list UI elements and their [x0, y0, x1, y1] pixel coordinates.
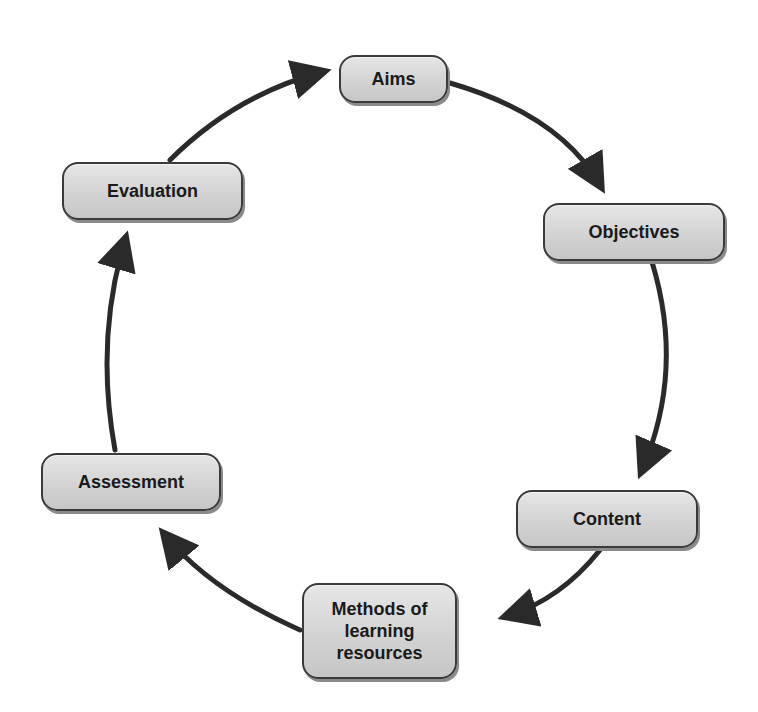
node-objectives: Objectives — [543, 203, 725, 261]
node-methods-of-learning-resources: Methods of learning resources — [302, 583, 457, 679]
arrow-content-to-methods — [507, 550, 600, 616]
node-content: Content — [516, 490, 698, 548]
node-evaluation: Evaluation — [62, 162, 243, 220]
curriculum-cycle-diagram: Aims Objectives Content Methods of learn… — [0, 0, 758, 712]
arrow-assessment-to-evaluation — [107, 240, 125, 450]
node-aims: Aims — [339, 55, 448, 103]
arrow-methods-to-assessment — [165, 535, 300, 630]
node-label: Evaluation — [107, 180, 198, 202]
arrow-objectives-to-content — [642, 262, 666, 470]
node-label: Aims — [371, 68, 415, 90]
arrow-aims-to-objectives — [450, 83, 600, 185]
node-label: Content — [573, 508, 641, 530]
node-label: Methods of learning resources — [332, 598, 428, 664]
arrow-evaluation-to-aims — [170, 72, 322, 160]
node-label: Objectives — [588, 221, 679, 243]
node-label: Assessment — [78, 471, 184, 493]
node-assessment: Assessment — [41, 453, 221, 511]
